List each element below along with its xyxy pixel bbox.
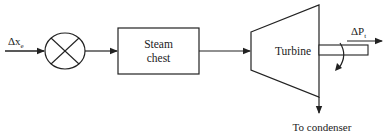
turbine-label: Turbine <box>275 45 311 57</box>
steam-chest-label-line1: Steam <box>144 38 173 50</box>
steam-chest-block: Steam chest <box>118 28 199 74</box>
input-label: Δxe <box>8 35 24 50</box>
condenser-label: To condenser <box>293 121 352 133</box>
output-label: ΔPt <box>351 25 366 40</box>
steam-chest-label-line2: chest <box>147 52 171 64</box>
turbine-block: Turbine <box>251 5 319 97</box>
summing-junction-icon <box>45 33 85 69</box>
diagram-canvas: Δxe Steam chest Turbine ΔPt To con <box>0 0 387 138</box>
